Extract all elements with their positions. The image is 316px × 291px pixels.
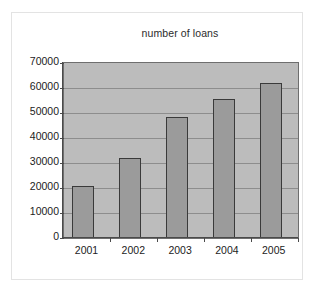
y-tick-label: 70000	[13, 56, 59, 67]
chart-title: number of loans	[63, 27, 297, 39]
x-axis-tick-labels: 20012002200320042005	[63, 245, 297, 261]
bar-2005	[260, 83, 282, 238]
x-tick-label: 2004	[203, 245, 250, 256]
y-tick-label: 40000	[13, 131, 59, 142]
x-tick-label: 2005	[250, 245, 297, 256]
x-axis-tick	[251, 238, 252, 242]
y-axis-tick	[60, 238, 64, 239]
bar-2004	[213, 99, 235, 238]
x-axis-tick	[298, 238, 299, 242]
x-axis-tick	[157, 238, 158, 242]
y-tick-label: 60000	[13, 81, 59, 92]
x-axis-tick	[204, 238, 205, 242]
x-tick-label: 2003	[157, 245, 204, 256]
x-tick-label: 2001	[63, 245, 110, 256]
y-tick-label: 20000	[13, 181, 59, 192]
bar-2001	[72, 186, 94, 239]
y-tick-label: 10000	[13, 206, 59, 217]
y-axis-line	[62, 62, 63, 238]
y-tick-label: 30000	[13, 156, 59, 167]
bar-2002	[119, 158, 141, 238]
x-axis-line	[62, 237, 298, 238]
chart-figure: number of loans 010000200003000040000500…	[0, 0, 316, 291]
y-tick-label: 0	[13, 231, 59, 242]
plot-area	[63, 62, 299, 239]
bar-2003	[166, 117, 188, 238]
y-tick-label: 50000	[13, 106, 59, 117]
x-axis-tick	[110, 238, 111, 242]
y-axis-tick-labels: 010000200003000040000500006000070000	[9, 62, 59, 237]
x-tick-label: 2002	[110, 245, 157, 256]
